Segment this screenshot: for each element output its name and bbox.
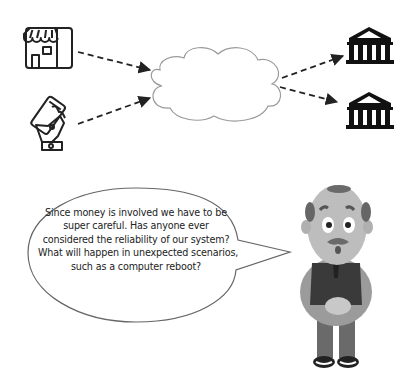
speech-line: What will happen in unexpected scenarios… — [38, 246, 234, 259]
storefront-icon — [24, 28, 72, 68]
speech-line: such as a computer reboot? — [38, 260, 234, 273]
bank-icon — [346, 92, 394, 129]
cloud-shape — [151, 48, 280, 121]
speech-line: Since money is involved we have to be — [38, 206, 234, 219]
speech-line: super careful. Has anyone ever — [38, 219, 234, 232]
bank-icon — [346, 27, 394, 64]
edge-cloud-to-bank-1 — [282, 56, 343, 78]
mobile-payment-icon — [30, 96, 66, 150]
speech-bubble-text: Since money is involved we have to be su… — [38, 206, 234, 273]
diagram-canvas — [0, 0, 416, 387]
edge-store-to-cloud — [78, 52, 150, 70]
bald-man-character — [300, 185, 373, 368]
speech-line: considered the reliability of our system… — [38, 233, 234, 246]
edge-mobile-to-cloud — [78, 98, 150, 124]
edge-cloud-to-bank-2 — [280, 87, 337, 102]
